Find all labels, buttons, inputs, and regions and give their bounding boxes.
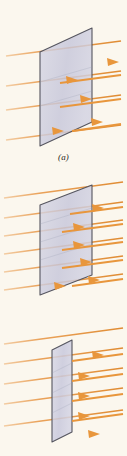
panel-b: (b) <box>0 168 127 316</box>
panel-a-illustration <box>0 0 127 168</box>
panel-a-caption: (a) <box>0 152 127 162</box>
rays-front-c <box>72 351 123 438</box>
panel-c-illustration <box>0 316 127 456</box>
sheet-b <box>40 185 92 295</box>
figure-container: (a) <box>0 0 127 456</box>
panel-b-illustration <box>0 168 127 316</box>
panel-a: (a) <box>0 0 127 168</box>
sheet-c <box>52 340 72 442</box>
panel-c: (c) <box>0 316 127 456</box>
